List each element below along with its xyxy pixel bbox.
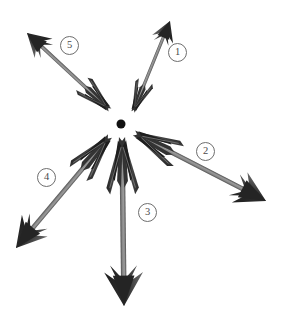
arrow-group-3 xyxy=(103,137,144,306)
arrow-label-2-text: 2 xyxy=(203,146,208,157)
arrow-label-1-text: 1 xyxy=(175,47,180,58)
arrow-group-2 xyxy=(126,118,274,216)
arrow-label-4-text: 4 xyxy=(44,172,49,183)
arrow-label-1: 1 xyxy=(168,43,187,62)
arrow-label-5: 5 xyxy=(60,36,79,55)
arrow-label-5-text: 5 xyxy=(67,40,72,51)
arrow-label-3-text: 3 xyxy=(145,207,150,218)
center-point xyxy=(117,120,126,129)
arrow-label-3: 3 xyxy=(138,203,157,222)
diagram-canvas: 1 2 3 4 5 xyxy=(0,0,284,317)
arrow-label-2: 2 xyxy=(196,142,215,161)
radial-arrow-svg xyxy=(0,0,284,317)
arrow-group-1 xyxy=(123,17,181,117)
arrow-group-4 xyxy=(3,125,123,259)
arrow-label-4: 4 xyxy=(37,168,56,187)
